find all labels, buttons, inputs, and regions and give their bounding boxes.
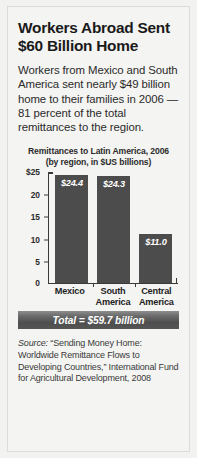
y-tick-label: 20 bbox=[31, 190, 40, 200]
source-note: Source: “Sending Money Home: Worldwide R… bbox=[18, 338, 179, 384]
bar-series: $24.4 $24.3 $11.0 bbox=[49, 172, 177, 283]
chart-container: Remittances to Latin America, 2006 (by r… bbox=[18, 146, 179, 305]
x-label-south-america: South America bbox=[91, 286, 134, 308]
bar-value-label: $11.0 bbox=[139, 237, 172, 247]
bar-chart-plot: $25 20 15 10 5 0 $24.4 bbox=[18, 172, 181, 305]
deck-paragraph: Workers from Mexico and South America se… bbox=[18, 63, 179, 134]
bar-central-america: $11.0 bbox=[139, 234, 172, 283]
x-label-mexico: Mexico bbox=[48, 286, 91, 308]
bar-value-label: $24.3 bbox=[97, 179, 130, 189]
source-lead-label: Source: bbox=[18, 338, 48, 348]
y-axis: $25 20 15 10 5 0 bbox=[18, 172, 44, 284]
y-tick-label: 0 bbox=[35, 278, 40, 288]
infographic-card: Workers Abroad Sent $60 Billion Home Wor… bbox=[7, 6, 190, 452]
page-title: Workers Abroad Sent $60 Billion Home bbox=[18, 19, 179, 54]
infographic-root: Workers Abroad Sent $60 Billion Home Wor… bbox=[0, 0, 197, 458]
y-tick-label: $25 bbox=[26, 167, 40, 177]
y-tick-label: 15 bbox=[31, 212, 40, 222]
y-tick-label: 5 bbox=[35, 257, 40, 267]
x-axis-labels: Mexico South America Central America bbox=[48, 286, 178, 308]
total-banner: Total = $59.7 billion bbox=[18, 311, 179, 329]
bar-south-america: $24.3 bbox=[97, 176, 130, 284]
x-label-central-america: Central America bbox=[135, 286, 178, 308]
chart-title: Remittances to Latin America, 2006 bbox=[18, 146, 179, 157]
chart-subtitle: (by region, in $US billions) bbox=[18, 157, 179, 168]
bar-mexico: $24.4 bbox=[55, 175, 88, 283]
y-tick-label: 10 bbox=[31, 235, 40, 245]
bar-value-label: $24.4 bbox=[55, 178, 88, 188]
total-banner-label: Total = $59.7 billion bbox=[53, 315, 145, 326]
